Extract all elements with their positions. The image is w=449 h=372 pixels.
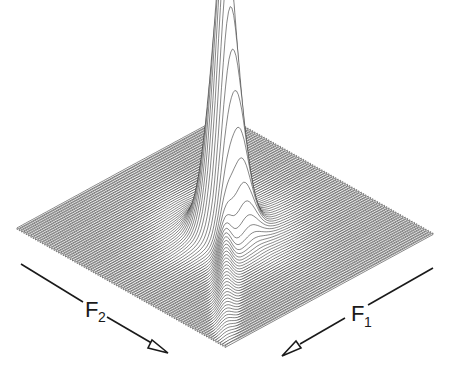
f1-axis-line-lower [300, 318, 345, 344]
f1-axis-label: F [351, 301, 364, 326]
surface-traces [17, 0, 433, 348]
stacked-surface-plot: F 2 F 1 [0, 0, 449, 372]
f2-arrow-icon [148, 340, 168, 353]
f1-axis-subscript: 1 [364, 314, 372, 330]
f1-arrow-icon [282, 341, 301, 356]
f2-axis-line-upper [21, 264, 83, 302]
f2-axis-subscript: 2 [98, 309, 106, 325]
f2-axis-line-lower [107, 317, 155, 345]
f1-axis-line-upper [368, 268, 433, 305]
f2-axis-label: F [85, 297, 98, 322]
